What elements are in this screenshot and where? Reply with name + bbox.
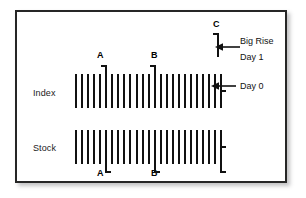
bar-index	[166, 74, 168, 108]
bar-tick-lower-right	[222, 171, 226, 173]
bar-stock-highlight	[154, 130, 156, 173]
bar-stock	[117, 130, 119, 164]
bar-index	[172, 74, 174, 108]
bar-index	[87, 74, 89, 108]
bar-stock	[142, 130, 144, 164]
bar-stock	[214, 130, 216, 164]
bar-c-tick-upper-left	[213, 33, 217, 35]
figure-root: Index Stock A B C A B Big Rise Day 1 Day…	[0, 0, 306, 198]
bar-stock	[172, 130, 174, 164]
bar-stock	[196, 130, 198, 164]
marker-letter-c-top: C	[213, 19, 220, 29]
bar-index	[99, 74, 101, 108]
bar-stock	[81, 130, 83, 164]
bar-stock	[184, 130, 186, 164]
bar-index	[81, 74, 83, 108]
bar-index	[184, 74, 186, 108]
row-label-stock: Stock	[33, 143, 56, 153]
bar-index	[196, 74, 198, 108]
bar-index-highlight	[154, 65, 156, 108]
bar-stock-highlight	[105, 130, 107, 173]
marker-letter-a-top: A	[97, 50, 104, 60]
annotation-big-rise-line1: Big Rise	[240, 36, 274, 46]
bar-stock	[136, 130, 138, 164]
bar-index	[178, 74, 180, 108]
bar-index	[129, 74, 131, 108]
bar-stock	[166, 130, 168, 164]
bar-index	[208, 74, 210, 108]
bar-stock	[202, 130, 204, 164]
bar-stock-highlight	[220, 130, 222, 173]
bar-stock	[129, 130, 131, 164]
bar-index	[142, 74, 144, 108]
bar-stock	[99, 130, 101, 164]
bar-index	[214, 74, 216, 108]
row-label-index: Index	[33, 88, 56, 98]
bar-index-highlight	[105, 65, 107, 108]
plot-area: Index Stock A B C A B Big Rise Day 1 Day…	[17, 12, 285, 181]
bar-tick-day-zero	[222, 90, 226, 92]
bar-index	[75, 74, 77, 108]
marker-letter-a-bottom: A	[97, 168, 104, 178]
bar-index	[123, 74, 125, 108]
bar-index	[148, 74, 150, 108]
figure-frame: Index Stock A B C A B Big Rise Day 1 Day…	[15, 10, 287, 183]
bar-stock	[148, 130, 150, 164]
bar-tick-upper-left	[150, 65, 154, 67]
bar-index	[117, 74, 119, 108]
bar-tick-lower-right	[107, 171, 111, 173]
bar-tick-day-zero	[222, 146, 226, 148]
bar-index	[202, 74, 204, 108]
bar-stock	[160, 130, 162, 164]
bar-stock	[178, 130, 180, 164]
bar-stock	[123, 130, 125, 164]
marker-letter-b-top: B	[151, 50, 158, 60]
bar-stock	[111, 130, 113, 164]
bar-stock	[208, 130, 210, 164]
bar-tick-lower-right	[156, 171, 160, 173]
annotation-big-rise-line2: Day 1	[240, 51, 264, 63]
bar-stock	[93, 130, 95, 164]
bar-stock	[87, 130, 89, 164]
bar-stock	[190, 130, 192, 164]
bar-c-big-rise	[217, 33, 219, 57]
bar-index	[160, 74, 162, 108]
annotation-day-zero: Day 0	[240, 81, 264, 91]
bar-index	[93, 74, 95, 108]
bar-stock	[75, 130, 77, 164]
bar-tick-upper-left	[101, 65, 105, 67]
bar-index	[190, 74, 192, 108]
bar-index	[136, 74, 138, 108]
bar-index	[111, 74, 113, 108]
